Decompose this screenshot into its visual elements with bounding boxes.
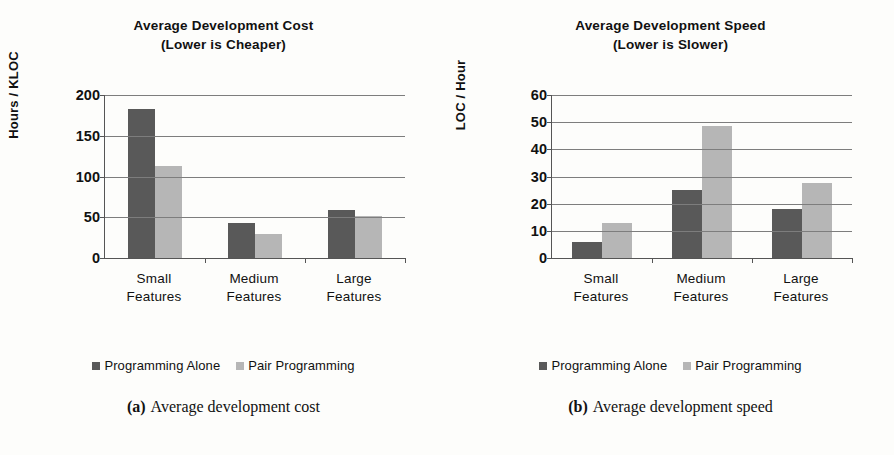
legend-item-pair-programming: Pair Programming [683, 358, 801, 373]
legend-cost: Programming Alone Pair Programming [0, 358, 447, 373]
gridline [552, 149, 852, 150]
x-axis-tick [305, 258, 306, 263]
y-axis-tick-label: 100 [76, 169, 100, 185]
category-label-line: Large [304, 270, 404, 288]
legend-label-programming-alone: Programming Alone [104, 358, 220, 373]
legend-swatch-icon-programming-alone [92, 362, 100, 370]
y-axis-tick-label: 0 [539, 250, 547, 266]
category-label-line: Features [751, 288, 851, 306]
gridline [552, 231, 852, 232]
figure-page: Average Development Cost (Lower is Cheap… [0, 0, 894, 455]
legend-swatch-icon-programming-alone [539, 362, 547, 370]
gridline [552, 95, 852, 96]
legend-label-programming-alone: Programming Alone [551, 358, 667, 373]
gridline [105, 136, 405, 137]
legend-item-programming-alone: Programming Alone [539, 358, 667, 373]
category-label-line: Features [204, 288, 304, 306]
y-axis-tick [547, 149, 552, 150]
caption-text-a: Average development cost [151, 398, 320, 415]
category-label-line: Features [551, 288, 651, 306]
plot-canvas-speed [551, 95, 852, 259]
y-axis-tick [547, 204, 552, 205]
x-axis-tick [752, 258, 753, 263]
bar [355, 216, 382, 258]
chart-title-cost: Average Development Cost (Lower is Cheap… [0, 16, 447, 54]
y-axis-tick-labels-speed: 0102030405060 [495, 88, 547, 258]
category-label-line: Medium [651, 270, 751, 288]
x-axis-category-labels-speed: SmallFeaturesMediumFeaturesLargeFeatures [551, 270, 851, 310]
gridline [552, 204, 852, 205]
y-axis-tick [547, 177, 552, 178]
chart-title-line-1: Average Development Speed [575, 18, 766, 33]
category-label-line: Features [651, 288, 751, 306]
y-axis-tick [100, 177, 105, 178]
gridline [105, 217, 405, 218]
x-axis-tick [652, 258, 653, 263]
y-axis-tick-label: 200 [76, 87, 100, 103]
category-label-line: Small [551, 270, 651, 288]
bar [255, 234, 282, 258]
y-axis-tick-label: 50 [84, 209, 100, 225]
x-axis-category-labels-cost: SmallFeaturesMediumFeaturesLargeFeatures [104, 270, 404, 310]
bar [228, 223, 255, 258]
gridline [105, 177, 405, 178]
y-axis-tick-label: 150 [76, 128, 100, 144]
y-axis-tick-labels-cost: 050100150200 [48, 88, 100, 258]
y-axis-tick [100, 258, 105, 259]
figure-caption-b: (b)Average development speed [447, 398, 894, 416]
chart-title-line-2: (Lower is Slower) [447, 35, 894, 54]
bar [702, 126, 732, 258]
legend-label-pair-programming: Pair Programming [248, 358, 354, 373]
y-axis-tick [547, 122, 552, 123]
caption-label-a: (a) [127, 398, 146, 415]
x-axis-category-label: LargeFeatures [304, 270, 404, 306]
gridline [105, 95, 405, 96]
y-axis-tick [547, 95, 552, 96]
y-axis-tick [547, 258, 552, 259]
bar [128, 109, 155, 258]
chart-title-line-2: (Lower is Cheaper) [0, 35, 447, 54]
chart-title-speed: Average Development Speed (Lower is Slow… [447, 16, 894, 54]
bar [155, 166, 182, 258]
plot-area-speed: LOC / Hour 0102030405060 [447, 88, 894, 273]
x-axis-tick [205, 258, 206, 263]
plot-canvas-cost [104, 95, 405, 259]
x-axis-category-label: MediumFeatures [204, 270, 304, 306]
figure-caption-a: (a)Average development cost [0, 398, 447, 416]
figure-average-development-cost: Average Development Cost (Lower is Cheap… [0, 0, 447, 455]
y-axis-label-cost: Hours / KLOC [6, 20, 21, 170]
legend-speed: Programming Alone Pair Programming [447, 358, 894, 373]
category-label-line: Medium [204, 270, 304, 288]
y-axis-tick-label: 0 [92, 250, 100, 266]
plot-area-cost: Hours / KLOC 050100150200 [0, 88, 447, 273]
legend-item-pair-programming: Pair Programming [236, 358, 354, 373]
y-axis-tick-label: 50 [531, 114, 547, 130]
x-axis-tick [405, 258, 406, 263]
legend-swatch-icon-pair-programming [236, 362, 244, 370]
x-axis-category-label: SmallFeatures [104, 270, 204, 306]
category-label-line: Features [104, 288, 204, 306]
category-label-line: Small [104, 270, 204, 288]
legend-label-pair-programming: Pair Programming [695, 358, 801, 373]
y-axis-tick-label: 10 [531, 223, 547, 239]
y-axis-tick-label: 40 [531, 141, 547, 157]
gridline [552, 177, 852, 178]
x-axis-category-label: LargeFeatures [751, 270, 851, 306]
figure-average-development-speed: Average Development Speed (Lower is Slow… [447, 0, 894, 455]
bar [772, 209, 802, 258]
y-axis-tick-label: 30 [531, 169, 547, 185]
y-axis-tick [100, 217, 105, 218]
x-axis-tick [852, 258, 853, 263]
y-axis-tick-label: 60 [531, 87, 547, 103]
category-label-line: Large [751, 270, 851, 288]
x-axis-category-label: SmallFeatures [551, 270, 651, 306]
legend-swatch-icon-pair-programming [683, 362, 691, 370]
y-axis-tick [547, 231, 552, 232]
y-axis-tick [100, 136, 105, 137]
caption-label-b: (b) [568, 398, 588, 415]
y-axis-label-speed: LOC / Hour [453, 20, 468, 170]
bar [672, 190, 702, 258]
x-axis-category-label: MediumFeatures [651, 270, 751, 306]
gridline [552, 122, 852, 123]
bar [802, 183, 832, 258]
